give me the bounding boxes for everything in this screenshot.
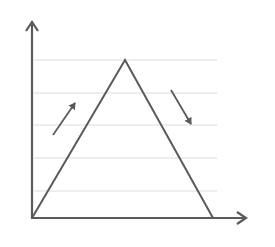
triangle-peak-line (32, 60, 213, 218)
rising-arrow-icon (53, 103, 75, 135)
diagram-canvas (0, 0, 275, 247)
gridlines (34, 60, 217, 191)
falling-arrow-icon (171, 90, 191, 124)
